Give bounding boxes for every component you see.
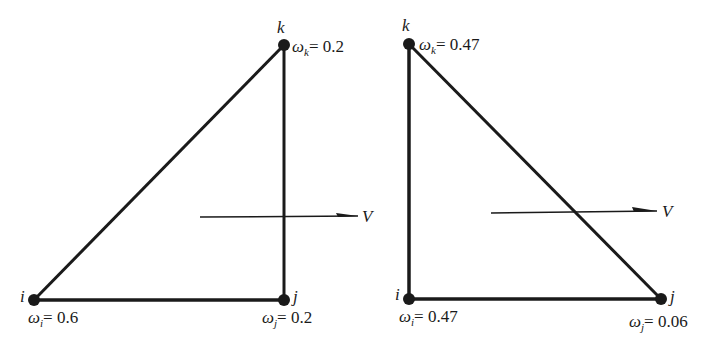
velocity-label: V	[662, 202, 675, 221]
velocity-arrow-shaft	[491, 211, 657, 213]
node-i	[403, 293, 415, 305]
velocity-arrow-shaft	[200, 216, 358, 217]
node-j	[655, 293, 667, 305]
node-i	[28, 294, 40, 306]
diagram-canvas: V k i j ωk= 0.2 ωi= 0.6 ωj= 0.2 V k i j …	[0, 0, 713, 353]
weight-k: ωk= 0.2	[292, 37, 344, 58]
left-triangle: V k i j ωk= 0.2 ωi= 0.6 ωj= 0.2	[20, 18, 375, 329]
weight-j: ωj= 0.06	[629, 312, 688, 333]
node-label-k: k	[277, 18, 285, 37]
node-label-i: i	[395, 285, 400, 304]
edge-i-k	[34, 45, 284, 300]
weight-j: ωj= 0.2	[262, 308, 312, 329]
node-j	[278, 294, 290, 306]
node-label-k: k	[402, 16, 410, 35]
node-label-j: j	[668, 287, 675, 306]
velocity-label: V	[362, 207, 375, 226]
node-label-j: j	[291, 287, 298, 306]
weight-k: ωk= 0.47	[419, 35, 480, 56]
node-k	[403, 38, 415, 50]
weight-i: ωi= 0.47	[399, 307, 458, 328]
node-k	[278, 39, 290, 51]
edge-k-j	[409, 44, 661, 299]
right-triangle: V k i j ωk= 0.47 ωi= 0.47 ωj= 0.06	[395, 16, 688, 333]
weight-i: ωi= 0.6	[28, 308, 78, 329]
node-label-i: i	[20, 287, 25, 306]
